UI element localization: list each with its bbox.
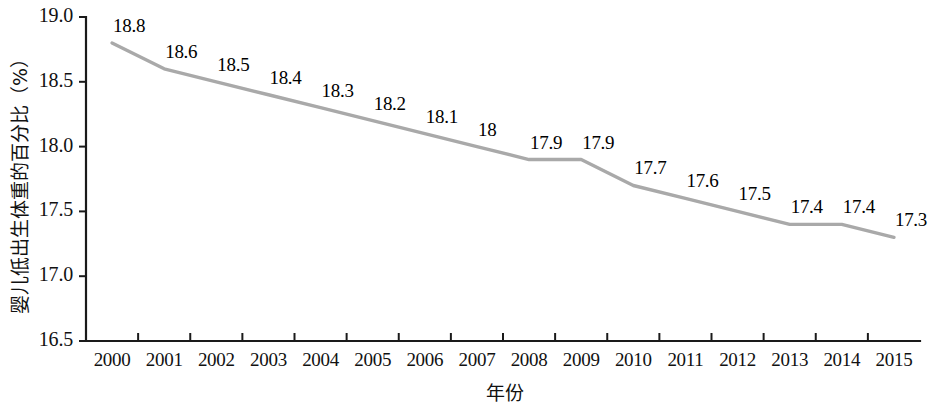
data-point-label: 17.3: [895, 209, 927, 231]
x-tick-label: 2014: [816, 349, 868, 371]
data-point-label: 18.8: [113, 15, 145, 37]
x-axis-title-text: 年份: [486, 382, 524, 404]
x-tick-label: 2009: [555, 349, 607, 371]
x-tick-label: 2006: [399, 349, 451, 371]
x-tick-label: 2000: [86, 349, 138, 371]
x-tick-label: 2015: [868, 349, 920, 371]
data-point-label: 17.4: [843, 196, 875, 218]
y-tick-label: 17.0: [0, 263, 73, 286]
x-tick-label: 2010: [607, 349, 659, 371]
data-point-label: 17.5: [739, 183, 771, 205]
line-chart: 婴儿低出生体重的百分比（%） 16.517.017.518.018.519.0 …: [0, 0, 928, 410]
data-point-label: 17.9: [582, 132, 614, 154]
data-point-label: 18: [478, 119, 496, 141]
tick-marks: [79, 17, 868, 341]
y-tick-label: 17.5: [0, 198, 73, 221]
x-tick-label: 2002: [190, 349, 242, 371]
x-tick-label: 2013: [764, 349, 816, 371]
y-tick-label: 16.5: [0, 328, 73, 351]
y-tick-label: 18.0: [0, 134, 73, 157]
y-tick-label: 19.0: [0, 4, 73, 27]
x-tick-label: 2001: [138, 349, 190, 371]
x-axis-title: 年份: [0, 378, 928, 405]
data-point-label: 17.4: [791, 196, 823, 218]
data-point-label: 18.2: [374, 93, 406, 115]
data-point-label: 18.5: [217, 54, 249, 76]
x-tick-label: 2008: [503, 349, 555, 371]
data-point-label: 17.6: [686, 170, 718, 192]
x-tick-label: 2012: [712, 349, 764, 371]
x-tick-label: 2003: [242, 349, 294, 371]
axes: [86, 17, 920, 341]
x-tick-label: 2005: [347, 349, 399, 371]
axis-spine: [86, 17, 920, 341]
data-point-label: 18.6: [165, 41, 197, 63]
x-tick-label: 2007: [451, 349, 503, 371]
x-tick-label: 2011: [659, 349, 711, 371]
data-point-label: 17.9: [530, 132, 562, 154]
x-tick-label: 2004: [295, 349, 347, 371]
data-point-label: 18.3: [322, 80, 354, 102]
y-tick-label: 18.5: [0, 69, 73, 92]
data-point-label: 17.7: [634, 157, 666, 179]
data-point-label: 18.4: [269, 67, 301, 89]
data-point-label: 18.1: [426, 106, 458, 128]
